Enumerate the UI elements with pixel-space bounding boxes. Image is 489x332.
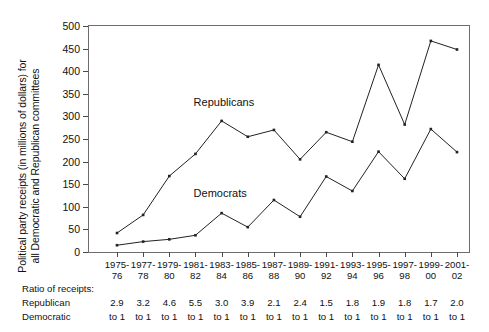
data-point-democrats [325,175,328,178]
plot-area [88,25,470,253]
x-tick-mark [405,252,406,257]
series-line-republicans [117,41,457,233]
x-tick-mark [222,252,223,257]
data-point-republicans [273,129,276,132]
x-tick-mark [143,252,144,257]
ratio-denominator-cell: to 1 [437,311,477,322]
x-tick-mark [169,252,170,257]
series-label-republicans: Republicans [194,96,255,108]
y-tick-label: 300 [50,111,80,121]
y-tick-label: 350 [50,89,80,99]
ratio-row-label-republican: Republican [22,297,70,308]
y-tick-label: 150 [50,179,80,189]
y-tick-label: 0 [50,247,80,257]
data-point-democrats [220,212,223,215]
y-axis-title-line-1: Political party receipts (in millions of… [16,59,29,273]
data-point-democrats [377,150,380,153]
series-label-democrats: Democrats [194,187,247,199]
x-tick-mark [352,252,353,257]
x-tick-mark [300,252,301,257]
data-point-democrats [116,244,119,247]
y-tick-label: 450 [50,44,80,54]
y-axis-title-line-2: all Democratic and Republican committees [29,69,42,264]
data-point-republicans [220,120,223,123]
data-point-democrats [168,238,171,241]
ratio-row-label-democratic: Democratic [22,311,71,322]
data-point-democrats [456,151,459,154]
data-point-republicans [456,48,459,51]
x-tick-mark [274,252,275,257]
data-point-republicans [116,232,119,235]
series-lines [89,26,469,252]
ratio-numerator-cell: 2.0 [437,297,477,308]
x-tick-mark [431,252,432,257]
y-tick-label: 400 [50,66,80,76]
data-point-republicans [246,135,249,138]
data-point-democrats [194,234,197,237]
y-tick-label: 200 [50,157,80,167]
y-tick-label: 500 [50,21,80,31]
y-tick-label: 50 [50,224,80,234]
x-tick-mark [195,252,196,257]
data-point-republicans [403,123,406,126]
y-tick-label: 100 [50,202,80,212]
data-point-democrats [142,240,145,243]
x-tick-mark [117,252,118,257]
data-point-democrats [430,128,433,131]
data-point-democrats [246,226,249,229]
x-tick-mark [326,252,327,257]
x-tick-mark [457,252,458,257]
data-point-democrats [351,190,354,193]
data-point-republicans [168,175,171,178]
y-tick-label: 250 [50,134,80,144]
x-tick-label: 2001-02 [437,259,477,281]
chart-figure: Political party receipts (in millions of… [0,0,489,332]
x-tick-mark [379,252,380,257]
data-point-democrats [403,177,406,180]
data-point-republicans [299,158,302,161]
data-point-republicans [430,40,433,43]
data-point-democrats [299,215,302,218]
ratio-table-heading: Ratio of receipts: [22,283,94,294]
data-point-republicans [325,131,328,134]
data-point-democrats [273,199,276,202]
series-line-democrats [117,129,457,245]
data-point-republicans [142,214,145,217]
data-point-republicans [194,153,197,156]
x-tick-mark [248,252,249,257]
data-point-republicans [351,140,354,143]
data-point-republicans [377,64,380,67]
